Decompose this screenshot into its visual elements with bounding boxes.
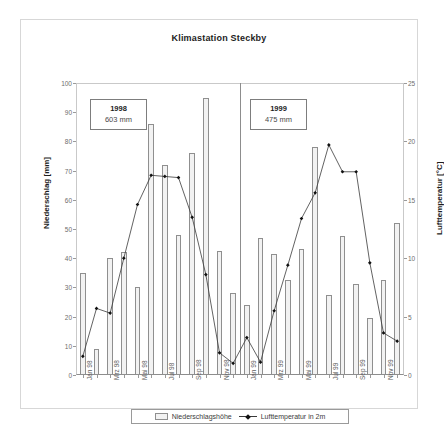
y-tick-label-left: 30 bbox=[65, 284, 72, 291]
legend-label-precipitation: Niederschlagshöhe bbox=[172, 413, 232, 420]
chart-frame: Klimastation Steckby Niederschlag [mm] L… bbox=[20, 19, 418, 409]
x-tick-mark bbox=[179, 375, 180, 378]
annotation-total: 475 mm bbox=[251, 114, 306, 125]
x-tick-mark bbox=[384, 375, 385, 378]
y-tick-label-left: 20 bbox=[65, 313, 72, 320]
temperature-marker bbox=[354, 170, 358, 174]
temperature-marker bbox=[122, 256, 126, 260]
temperature-marker bbox=[313, 191, 317, 195]
x-tick-label: Jul 98 bbox=[168, 363, 175, 380]
x-tick-label: Jan 98 bbox=[86, 360, 93, 380]
y-tick-label-right: 5 bbox=[408, 313, 412, 320]
temperature-marker bbox=[95, 307, 99, 311]
x-tick-mark bbox=[233, 375, 234, 378]
temperature-marker bbox=[81, 354, 85, 358]
temperature-line bbox=[83, 145, 397, 363]
y-tick-label-right: 10 bbox=[408, 255, 415, 262]
x-tick-label: Jul 99 bbox=[332, 363, 339, 380]
x-tick-mark bbox=[370, 375, 371, 378]
temperature-marker bbox=[190, 215, 194, 219]
x-tick-label: Mrz 99 bbox=[277, 360, 284, 380]
legend-label-temperature: Lufttemperatur in 2m bbox=[261, 413, 326, 420]
temperature-marker bbox=[163, 175, 167, 179]
y-tick-label-right: 0 bbox=[408, 372, 412, 379]
temperature-marker bbox=[272, 309, 276, 313]
x-tick-mark bbox=[315, 375, 316, 378]
y-tick-label-left: 50 bbox=[65, 226, 72, 233]
temperature-marker bbox=[300, 217, 304, 221]
x-tick-label: Nov 98 bbox=[223, 359, 230, 380]
y-tick-mark-right bbox=[404, 375, 407, 376]
temperature-marker bbox=[245, 336, 249, 340]
x-tick-mark bbox=[302, 375, 303, 378]
temperature-marker bbox=[341, 170, 345, 174]
temperature-marker bbox=[149, 173, 153, 177]
x-tick-label: Sep 98 bbox=[195, 359, 202, 380]
y-tick-mark-right bbox=[404, 317, 407, 318]
x-tick-mark bbox=[124, 375, 125, 378]
x-tick-mark bbox=[247, 375, 248, 378]
y-tick-mark-right bbox=[404, 200, 407, 201]
temperature-marker bbox=[177, 176, 181, 180]
x-tick-label: Jan 99 bbox=[250, 360, 257, 380]
temperature-marker bbox=[395, 339, 399, 343]
bar-swatch-icon bbox=[155, 413, 168, 420]
y-tick-label-left: 60 bbox=[65, 196, 72, 203]
y-tick-label-left: 0 bbox=[68, 372, 72, 379]
x-tick-mark bbox=[83, 375, 84, 378]
x-tick-mark bbox=[192, 375, 193, 378]
y-axis-label-left: Niederschlag [mm] bbox=[42, 157, 51, 229]
line-marker-icon bbox=[239, 413, 257, 420]
temperature-marker bbox=[108, 311, 112, 315]
y-tick-mark-right bbox=[404, 258, 407, 259]
x-tick-mark bbox=[397, 375, 398, 378]
temperature-marker bbox=[368, 261, 372, 265]
x-tick-label: Mai 99 bbox=[305, 360, 312, 380]
x-tick-label: Nov 99 bbox=[387, 359, 394, 380]
x-tick-mark bbox=[329, 375, 330, 378]
annotation-total: 603 mm bbox=[91, 114, 146, 125]
y-tick-label-right: 15 bbox=[408, 196, 415, 203]
x-tick-mark bbox=[97, 375, 98, 378]
x-tick-mark bbox=[261, 375, 262, 378]
x-tick-mark bbox=[343, 375, 344, 378]
x-tick-mark bbox=[151, 375, 152, 378]
y-tick-label-right: 20 bbox=[408, 138, 415, 145]
y-tick-label-right: 25 bbox=[408, 80, 415, 87]
x-axis: Jan 98Mrz 98Mai 98Jul 98Sep 98Nov 98Jan … bbox=[76, 375, 404, 409]
x-tick-label: Mai 98 bbox=[141, 360, 148, 380]
x-tick-mark bbox=[206, 375, 207, 378]
chart-title: Klimastation Steckby bbox=[21, 33, 417, 43]
temperature-marker bbox=[204, 273, 208, 277]
y-axis-label-right: Lufttemperatur [°C] bbox=[435, 162, 444, 235]
y-tick-label-left: 80 bbox=[65, 138, 72, 145]
annotation-box-1998: 1998 603 mm bbox=[90, 99, 147, 130]
x-tick-mark bbox=[138, 375, 139, 378]
temperature-marker bbox=[286, 263, 290, 267]
x-tick-label: Sep 99 bbox=[359, 359, 366, 380]
legend-item-precipitation: Niederschlagshöhe bbox=[155, 413, 232, 420]
annotation-box-1999: 1999 475 mm bbox=[250, 99, 307, 130]
temperature-marker bbox=[259, 360, 263, 364]
temperature-marker bbox=[327, 143, 331, 147]
y-tick-label-left: 90 bbox=[65, 109, 72, 116]
x-tick-mark bbox=[110, 375, 111, 378]
x-tick-mark bbox=[165, 375, 166, 378]
plot-area: 0102030405060708090100 0510152025 1998 6… bbox=[76, 83, 404, 375]
chart-legend: Niederschlagshöhe Lufttemperatur in 2m bbox=[131, 409, 349, 424]
x-tick-label: Mrz 98 bbox=[113, 360, 120, 380]
annotation-year: 1998 bbox=[91, 103, 146, 114]
y-tick-label-left: 70 bbox=[65, 167, 72, 174]
annotation-year: 1999 bbox=[251, 103, 306, 114]
y-tick-label-left: 10 bbox=[65, 342, 72, 349]
y-tick-mark-right bbox=[404, 83, 407, 84]
x-tick-mark bbox=[356, 375, 357, 378]
temperature-marker bbox=[382, 331, 386, 335]
x-tick-mark bbox=[220, 375, 221, 378]
x-tick-mark bbox=[288, 375, 289, 378]
y-tick-label-left: 40 bbox=[65, 255, 72, 262]
temperature-marker bbox=[136, 203, 140, 207]
x-tick-mark bbox=[274, 375, 275, 378]
legend-item-temperature: Lufttemperatur in 2m bbox=[239, 413, 326, 420]
y-tick-mark-right bbox=[404, 141, 407, 142]
